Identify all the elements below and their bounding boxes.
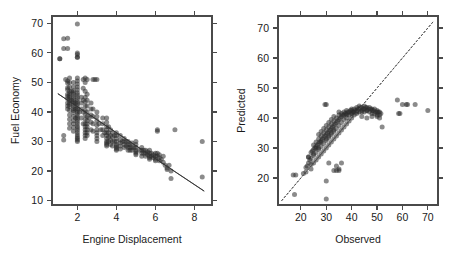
figure-canvas: 246810203040506070Engine DisplacementFue… <box>0 0 454 262</box>
data-points-left <box>57 21 204 180</box>
y-tick-label: 60 <box>31 47 43 59</box>
panel-right: 203040506070203040506070ObservedPredicte… <box>235 11 443 245</box>
data-point <box>377 116 382 121</box>
data-point <box>369 108 374 113</box>
data-point <box>359 114 364 119</box>
data-point <box>89 101 94 106</box>
y-tick-label: 40 <box>257 112 269 124</box>
data-point <box>349 111 354 116</box>
data-point <box>413 102 418 107</box>
data-point <box>369 114 374 119</box>
y-tick-label: 30 <box>31 135 43 147</box>
data-point <box>359 110 364 115</box>
data-point <box>397 111 402 116</box>
data-point <box>375 110 380 115</box>
data-point <box>200 174 205 179</box>
y-tick-label: 70 <box>257 22 269 34</box>
x-tick-label: 30 <box>320 211 332 223</box>
data-point <box>292 192 297 197</box>
y-axis-title-left: Fuel Economy <box>9 76 21 144</box>
y-tick-label: 20 <box>257 172 269 184</box>
x-tick-label: 60 <box>397 211 409 223</box>
data-point <box>75 21 80 26</box>
data-point <box>85 133 90 138</box>
x-tick-label: 8 <box>192 211 198 223</box>
data-point <box>322 102 327 107</box>
data-point <box>94 139 99 144</box>
data-point <box>314 146 319 151</box>
data-point <box>104 115 109 120</box>
data-point <box>57 56 62 61</box>
data-point <box>172 127 177 132</box>
y-tick-label: 30 <box>257 142 269 154</box>
data-point <box>336 167 341 172</box>
data-point <box>326 161 331 166</box>
data-point <box>395 98 400 103</box>
data-point <box>326 134 331 139</box>
data-point <box>380 125 385 130</box>
x-tick-label: 50 <box>371 211 383 223</box>
data-point <box>331 128 336 133</box>
data-point <box>309 167 314 172</box>
data-point <box>75 139 80 144</box>
regression-line-overlay <box>58 94 204 191</box>
data-point <box>61 138 66 143</box>
y-axis-title-right: Predicted <box>235 88 247 133</box>
x-axis-title-right: Observed <box>335 233 381 245</box>
data-point <box>133 152 138 157</box>
data-point <box>364 108 369 113</box>
data-point <box>65 46 70 51</box>
scatter-plot-figure: 246810203040506070Engine DisplacementFue… <box>0 0 454 262</box>
data-point <box>94 77 99 82</box>
data-point <box>339 161 344 166</box>
data-point <box>311 152 316 157</box>
x-tick-label: 20 <box>295 211 307 223</box>
data-point <box>94 109 99 114</box>
data-point <box>161 154 166 159</box>
y-tick-label: 50 <box>31 76 43 88</box>
data-point <box>85 92 90 97</box>
data-point <box>65 36 70 41</box>
y-tick-label: 10 <box>31 194 43 206</box>
data-point <box>85 77 90 82</box>
data-point <box>319 140 324 145</box>
x-tick-label: 70 <box>422 211 434 223</box>
data-point <box>67 76 72 81</box>
data-point <box>155 129 160 134</box>
y-tick-label: 50 <box>257 82 269 94</box>
y-tick-label: 70 <box>31 17 43 29</box>
data-point <box>324 179 329 184</box>
x-tick-label: 4 <box>113 211 119 223</box>
data-point <box>306 155 311 160</box>
data-point <box>169 176 174 181</box>
data-point <box>405 102 410 107</box>
data-point <box>291 173 296 178</box>
data-point <box>61 133 66 138</box>
x-tick-label: 40 <box>346 211 358 223</box>
y-tick-label: 20 <box>31 165 43 177</box>
data-point <box>324 197 329 202</box>
x-tick-label: 6 <box>152 211 158 223</box>
data-point <box>331 168 336 173</box>
data-point <box>75 55 80 60</box>
y-tick-label: 60 <box>257 52 269 64</box>
data-point <box>344 113 349 118</box>
data-points-right <box>291 98 431 202</box>
data-point <box>425 108 430 113</box>
data-point <box>104 120 109 125</box>
data-point <box>200 139 205 144</box>
data-point <box>364 116 369 121</box>
x-tick-label: 2 <box>74 211 80 223</box>
x-axis-title-left: Engine Displacement <box>82 233 181 245</box>
y-tick-label: 40 <box>31 106 43 118</box>
panel-left: 246810203040506070Engine DisplacementFue… <box>9 11 217 245</box>
